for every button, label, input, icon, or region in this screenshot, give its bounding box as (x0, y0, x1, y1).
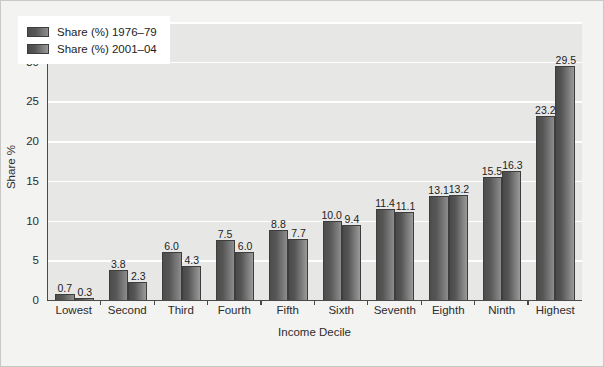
bar-pair: 11.411.1 (376, 22, 414, 300)
bar-value-label: 29.5 (556, 54, 576, 66)
bar-value-label: 6.0 (164, 240, 179, 252)
bar[interactable]: 8.8 (269, 230, 288, 300)
legend-swatch (27, 27, 49, 37)
bar[interactable]: 23.2 (536, 116, 555, 300)
x-axis-tick-label: Fifth (261, 304, 315, 322)
bar-value-label: 4.3 (184, 254, 199, 266)
bar-value-label: 7.7 (291, 227, 306, 239)
legend-item[interactable]: Share (%) 2001–04 (27, 40, 157, 57)
bar-value-label: 0.3 (78, 286, 93, 298)
y-axis-tick-label: 20 (26, 135, 39, 147)
bar[interactable]: 29.5 (555, 66, 574, 300)
bar[interactable]: 6.0 (235, 252, 254, 300)
bar-value-label: 10.0 (321, 209, 341, 221)
bar-group: 11.411.1 (368, 22, 421, 300)
x-axis-tick-label: Third (154, 304, 208, 322)
bar[interactable]: 0.7 (55, 294, 74, 300)
x-axis-title: Income Decile (47, 326, 582, 338)
y-axis-title: Share % (5, 107, 17, 227)
bar-value-label: 0.7 (57, 282, 72, 294)
bar-group: 15.516.3 (475, 22, 528, 300)
bar-pair: 23.229.5 (536, 22, 574, 300)
bar-group: 13.113.2 (422, 22, 475, 300)
bar-value-label: 13.1 (428, 184, 448, 196)
legend-label: Share (%) 1976–79 (57, 26, 157, 38)
y-axis-tick-label: 10 (26, 215, 39, 227)
bar-value-label: 8.8 (271, 218, 286, 230)
bar-group: 7.56.0 (208, 22, 261, 300)
legend-item[interactable]: Share (%) 1976–79 (27, 23, 157, 40)
bar-value-label: 2.3 (131, 270, 146, 282)
chart-figure: 05101520253035 Share % 0.70.33.82.36.04.… (0, 0, 604, 367)
bar[interactable]: 13.1 (429, 196, 448, 300)
bar[interactable]: 10.0 (323, 221, 342, 300)
x-axis-tick-label: Fourth (208, 304, 262, 322)
bar-pair: 7.56.0 (216, 22, 254, 300)
bar[interactable]: 2.3 (128, 282, 147, 300)
bar-value-label: 11.1 (396, 200, 416, 212)
bar-value-label: 6.0 (238, 240, 253, 252)
x-axis-tick-label: Second (101, 304, 155, 322)
bar-value-label: 11.4 (375, 197, 395, 209)
bar-value-label: 7.5 (218, 228, 233, 240)
y-axis-tick-label: 0 (33, 294, 39, 306)
bar-value-label: 9.4 (345, 213, 360, 225)
y-axis-tick-label: 25 (26, 95, 39, 107)
bar[interactable]: 0.3 (75, 298, 94, 300)
bar[interactable]: 4.3 (182, 266, 201, 300)
bar[interactable]: 9.4 (342, 225, 361, 300)
bar[interactable]: 13.2 (449, 195, 468, 300)
bar[interactable]: 3.8 (109, 270, 128, 300)
x-axis-tick-label: Lowest (47, 304, 101, 322)
chart-legend: Share (%) 1976–79Share (%) 2001–04 (18, 16, 170, 64)
x-axis-labels: LowestSecondThirdFourthFifthSixthSeventh… (47, 304, 582, 322)
bar-group: 10.09.4 (315, 22, 368, 300)
bar[interactable]: 11.1 (395, 212, 414, 300)
bar-value-label: 15.5 (482, 165, 502, 177)
legend-label: Share (%) 2001–04 (57, 43, 157, 55)
x-axis-tick-label: Eighth (422, 304, 476, 322)
bar-pair: 13.113.2 (429, 22, 467, 300)
bar-group: 23.229.5 (529, 22, 582, 300)
bar-pair: 10.09.4 (323, 22, 361, 300)
bar[interactable]: 16.3 (502, 171, 521, 300)
bar-pair: 15.516.3 (483, 22, 521, 300)
bar[interactable]: 15.5 (483, 177, 502, 300)
legend-swatch (27, 44, 49, 54)
bar[interactable]: 7.7 (288, 239, 307, 300)
bar-pair: 8.87.7 (269, 22, 307, 300)
x-axis-tick-label: Seventh (368, 304, 422, 322)
x-axis-tick-label: Sixth (315, 304, 369, 322)
bar-group: 8.87.7 (262, 22, 315, 300)
bar-value-label: 16.3 (502, 159, 522, 171)
x-axis-tick-label: Highest (529, 304, 583, 322)
bar-value-label: 23.2 (535, 104, 555, 116)
y-axis-tick-label: 15 (26, 175, 39, 187)
y-axis-tick-label: 5 (33, 254, 39, 266)
bar[interactable]: 7.5 (216, 240, 235, 300)
bar-value-label: 13.2 (449, 183, 469, 195)
bar-value-label: 3.8 (111, 258, 126, 270)
bar[interactable]: 6.0 (162, 252, 181, 300)
x-axis-tick-label: Ninth (475, 304, 529, 322)
bar[interactable]: 11.4 (376, 209, 395, 300)
